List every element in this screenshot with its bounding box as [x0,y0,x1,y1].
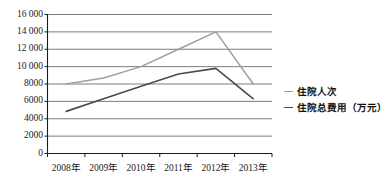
grid-lines [48,15,273,137]
y-axis-tick-label: 0 [38,148,43,158]
y-axis-tick-label: 4000 [24,113,43,123]
y-axis-tick-label: 10 000 [17,61,43,71]
y-axis-tick-label: 16 000 [17,9,43,19]
y-axis-tick-label: 2000 [24,130,43,140]
y-axis-tick-label: 8000 [24,78,43,88]
y-axis-tick-label: 12 000 [17,43,43,53]
legend-item: 住院总费用（万元） [284,100,387,114]
line-chart: 0200040006000800010 00012 00014 00016 00… [0,0,387,187]
y-axis-tick-label: 14 000 [17,26,43,36]
series-line-2 [66,68,253,111]
legend-swatch-line-icon [284,107,293,108]
x-axis-tick-label: 2013年 [231,160,275,174]
legend-label: 住院总费用（万元） [297,100,387,114]
y-axis-tick-label: 6000 [24,95,43,105]
legend-label: 住院人次 [297,84,337,98]
legend-item: 住院人次 [284,84,337,98]
legend-swatch-line-icon [284,91,293,92]
